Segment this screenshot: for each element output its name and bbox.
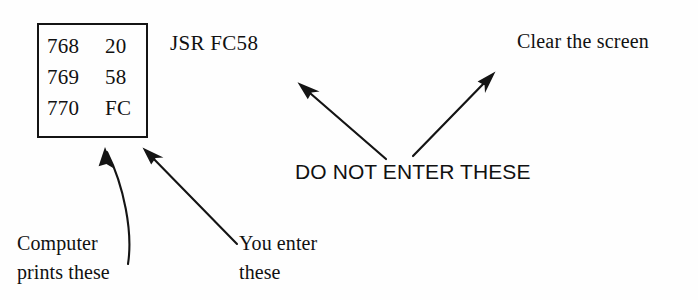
- table-row: 768 20: [39, 31, 150, 62]
- computer-prints-line-2: prints these: [17, 258, 110, 287]
- memory-address: 769: [39, 62, 99, 93]
- table-row: 769 58: [39, 62, 150, 93]
- you-enter-line-1: You enter: [239, 229, 317, 258]
- memory-value: 58: [99, 62, 126, 93]
- computer-prints-line-1: Computer: [17, 229, 110, 258]
- mnemonic-label: JSR FC58: [170, 31, 258, 56]
- table-row: 770 FC: [39, 93, 150, 124]
- arrow-you-enter-icon: [143, 147, 238, 244]
- memory-value: FC: [99, 93, 131, 124]
- memory-address: 768: [39, 31, 99, 62]
- memory-listing-box: 768 20 769 58 770 FC: [37, 23, 148, 138]
- do-not-enter-warning-label: DO NOT ENTER THESE: [295, 160, 531, 184]
- clear-screen-label: Clear the screen: [517, 30, 649, 53]
- diagram-canvas: 768 20 769 58 770 FC JSR FC58 Clear the …: [0, 0, 698, 300]
- arrow-do-not-enter-left-icon: [298, 82, 387, 159]
- computer-prints-callout: Computer prints these: [17, 229, 110, 287]
- you-enter-callout: You enter these: [239, 229, 317, 287]
- you-enter-line-2: these: [239, 258, 317, 287]
- memory-address: 770: [39, 93, 99, 124]
- arrow-do-not-enter-right-icon: [413, 72, 496, 157]
- memory-value: 20: [99, 31, 126, 62]
